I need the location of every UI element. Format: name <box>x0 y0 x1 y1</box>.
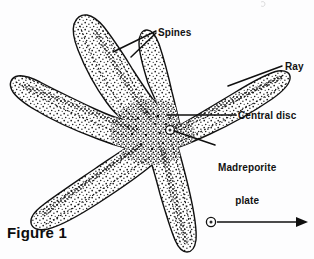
figure-caption: Figure 1 <box>7 224 67 241</box>
eyespot-pointer-arrow <box>217 217 308 227</box>
starfish-figure <box>0 0 314 259</box>
label-ray: Ray <box>285 61 304 72</box>
label-madreporite-plate: Madreporite plate <box>218 140 276 217</box>
label-central-disc: Central disc <box>238 110 296 121</box>
label-madreporite-line2: plate <box>218 195 276 206</box>
label-spines: Spines <box>158 27 191 38</box>
madreporite-plate-center <box>169 129 172 132</box>
scan-artifact <box>261 2 265 7</box>
ray-tip-eyespot-center <box>210 221 213 224</box>
arrow-head <box>296 217 308 227</box>
label-madreporite-line1: Madreporite <box>218 162 276 173</box>
